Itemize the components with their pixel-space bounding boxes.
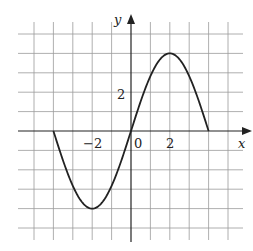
x-axis-arrow-icon bbox=[242, 127, 252, 135]
x-tick-label-2: 2 bbox=[166, 136, 174, 151]
origin-label: 0 bbox=[134, 136, 142, 151]
x-tick-label-neg2: −2 bbox=[83, 136, 102, 151]
y-axis-arrow-icon bbox=[127, 14, 135, 24]
function-graph: x y 0 −2 2 2 bbox=[0, 0, 253, 251]
y-tick-label-2: 2 bbox=[117, 87, 125, 102]
y-axis-label: y bbox=[113, 12, 122, 27]
x-axis-label: x bbox=[238, 136, 246, 151]
